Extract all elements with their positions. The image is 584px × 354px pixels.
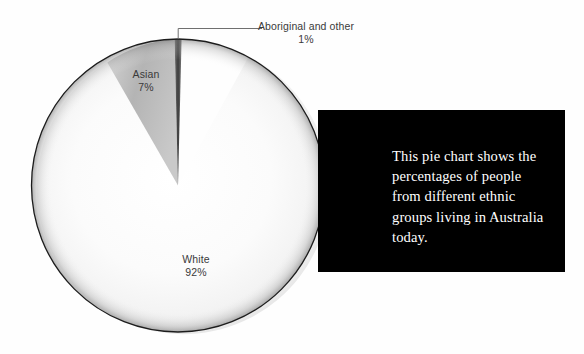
slice-label-asian-name: Asian — [133, 68, 160, 80]
slice-label-aboriginal-value: 1% — [258, 33, 354, 46]
leader-line-aboriginal — [178, 29, 262, 40]
slice-label-white-name: White — [182, 253, 209, 265]
slice-label-asian-value: 7% — [118, 81, 174, 94]
pie-chart-figure: Asian 7% White 92% Aboriginal and other … — [0, 0, 584, 354]
slice-label-white-value: 92% — [168, 266, 224, 279]
slice-label-aboriginal: Aboriginal and other 1% — [258, 20, 378, 46]
slice-label-asian: Asian 7% — [118, 68, 174, 94]
slice-label-white: White 92% — [168, 253, 224, 279]
slice-label-aboriginal-name: Aboriginal and other — [258, 20, 354, 32]
pie-rim-shading — [32, 39, 325, 332]
caption-box: This pie chart shows the percentages of … — [318, 110, 565, 272]
caption-text: This pie chart shows the percentages of … — [392, 146, 552, 247]
